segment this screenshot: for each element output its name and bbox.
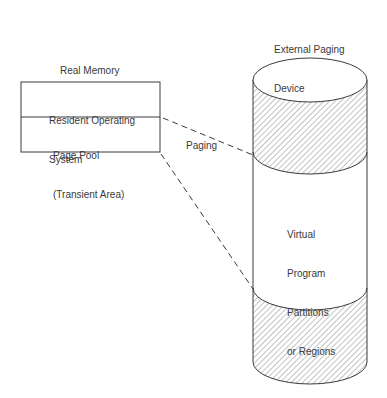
virtual-partitions-label: Virtual Program Partitions or Regions [287, 202, 335, 371]
label-line: Partitions [287, 306, 335, 319]
page-pool-label: Page Pool (Transient Area) [53, 123, 124, 214]
label-line: Virtual [287, 228, 335, 241]
label-line: (Transient Area) [53, 188, 124, 201]
label-line: or Regions [287, 345, 335, 358]
real-memory-title: Real Memory [60, 64, 119, 77]
paging-line-bottom [161, 154, 253, 289]
label-line: Program [287, 267, 335, 280]
label-line: Page Pool [53, 149, 124, 162]
title-line: External Paging [274, 43, 345, 56]
title-line: Device [274, 82, 345, 95]
paging-label: Paging [186, 139, 217, 152]
external-device-title: External Paging Device [274, 17, 345, 108]
